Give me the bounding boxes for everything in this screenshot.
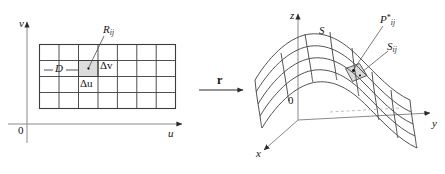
cell-label-Rij-sub: ij [110, 28, 114, 37]
x-axis-label: x [256, 148, 261, 159]
point-label-Pij-sub: ij [391, 18, 395, 27]
Pij-leader-line [354, 26, 383, 69]
figure-canvas: v u 0 D Rij Δu Δv r z y x 0 S P*ij Sij [0, 0, 445, 174]
surface-label-S: S [319, 25, 325, 36]
point-label-Pij: P*ij [380, 14, 395, 27]
sample-point-uv [87, 67, 89, 69]
z-axis-label: z [290, 10, 294, 21]
xyz-surface-group [255, 14, 430, 150]
origin-label-uv: 0 [18, 125, 24, 136]
delta-v-label: Δv [100, 60, 113, 71]
Sij-leader-line [362, 51, 388, 72]
u-axis-label: u [168, 128, 174, 139]
x-axis [264, 120, 298, 150]
sample-point-Pij-secondary [359, 74, 361, 76]
v-axis-label: v [19, 18, 24, 29]
patch-label-Sij: Sij [387, 41, 397, 54]
y-axis-label: y [432, 118, 437, 129]
y-axis [298, 113, 430, 120]
domain-label-D: D [55, 63, 63, 74]
origin-label-xyz: 0 [288, 95, 294, 106]
figure-svg [0, 0, 445, 174]
sample-point-Pij [352, 69, 355, 72]
delta-u-label: Δu [80, 78, 93, 89]
patch-label-Sij-sub: ij [393, 45, 397, 54]
cell-label-Rij-main: R [103, 23, 110, 35]
uv-plane-group [8, 22, 182, 143]
point-label-Pij-main: P [380, 13, 387, 25]
map-arrow-label-r: r [217, 74, 222, 86]
cell-label-Rij: Rij [103, 24, 114, 37]
